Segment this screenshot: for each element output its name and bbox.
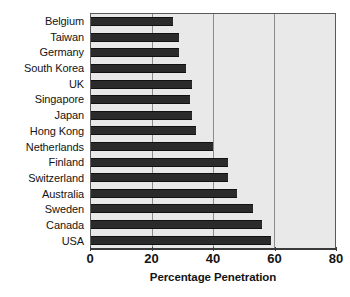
bar-row [91, 61, 335, 77]
plot-area [90, 13, 336, 249]
category-label: UK [69, 78, 88, 90]
bar-row [91, 170, 335, 186]
bar-row [91, 14, 335, 30]
x-tick-label: 20 [144, 251, 158, 266]
x-tick-label: 0 [86, 251, 93, 266]
category-label: Singapore [35, 93, 88, 105]
bar-row [91, 186, 335, 202]
bar-row [91, 123, 335, 139]
category-label: Taiwan [50, 31, 88, 43]
bar-row [91, 92, 335, 108]
bar [91, 111, 192, 120]
category-label: Netherlands [26, 141, 88, 153]
bar [91, 95, 190, 104]
bar-chart: BelgiumTaiwanGermanySouth KoreaUKSingapo… [0, 0, 350, 297]
x-tick-label: 40 [206, 251, 220, 266]
category-label: Finland [49, 156, 88, 168]
category-label: Germany [39, 46, 88, 58]
bar-row [91, 201, 335, 217]
bar [91, 33, 179, 42]
category-label: Hong Kong [30, 125, 88, 137]
category-label: Belgium [45, 15, 88, 27]
bar [91, 80, 192, 89]
x-tick-label: 80 [329, 251, 343, 266]
bar [91, 220, 262, 229]
bar-row [91, 108, 335, 124]
bar-row [91, 217, 335, 233]
bar [91, 189, 237, 198]
bar [91, 64, 186, 73]
bar [91, 236, 271, 245]
x-tick-label: 60 [267, 251, 281, 266]
bar [91, 126, 196, 135]
bar [91, 204, 253, 213]
category-label: USA [62, 235, 88, 247]
x-axis-title: Percentage Penetration [90, 271, 336, 283]
bar-row [91, 76, 335, 92]
bar-row [91, 232, 335, 248]
category-label: Switzerland [28, 172, 88, 184]
bar [91, 142, 213, 151]
category-label: South Korea [24, 62, 88, 74]
bar [91, 158, 228, 167]
bar-row [91, 45, 335, 61]
category-label: Japan [55, 109, 88, 121]
bar [91, 173, 228, 182]
category-label: Australia [42, 188, 88, 200]
bar-row [91, 139, 335, 155]
bar-row [91, 30, 335, 46]
category-label: Sweden [45, 203, 88, 215]
bar-series [91, 14, 335, 248]
bar [91, 48, 179, 57]
bar [91, 17, 173, 26]
category-label: Canada [46, 219, 88, 231]
category-axis: BelgiumTaiwanGermanySouth KoreaUKSingapo… [0, 13, 88, 249]
x-axis-ticks: 020406080 [90, 251, 336, 269]
bar-row [91, 154, 335, 170]
